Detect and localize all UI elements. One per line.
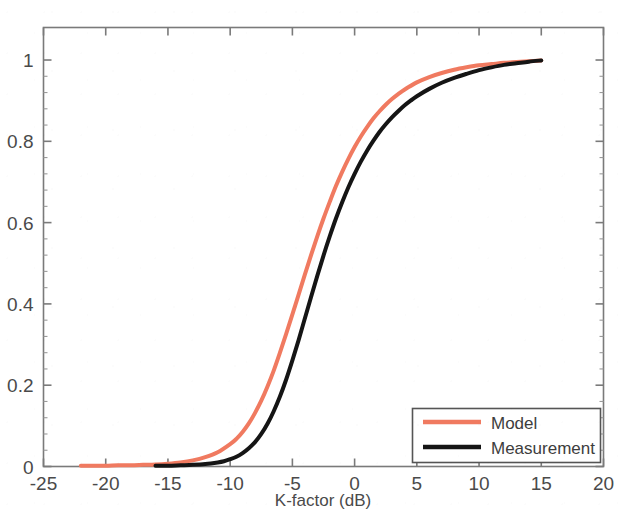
figure-container: 00.20.40.60.81 -25-20-15-10-505101520 K-… — [0, 0, 625, 514]
y-axis-tick-labels: 00.20.40.60.81 — [7, 50, 34, 477]
y-tick-label: 0.8 — [7, 131, 33, 152]
y-tick-label: 1 — [23, 50, 34, 71]
x-tick-label: 5 — [412, 473, 423, 494]
y-tick-label: 0.6 — [7, 213, 33, 234]
x-tick-label: -20 — [92, 473, 119, 494]
x-tick-label: 10 — [468, 473, 489, 494]
x-tick-label: -25 — [30, 473, 57, 494]
legend-label-measurement: Measurement — [491, 439, 595, 458]
series-line-measurement — [156, 60, 542, 465]
x-tick-label: -10 — [216, 473, 243, 494]
y-tick-label: 0.2 — [7, 375, 33, 396]
data-series-group — [81, 60, 541, 465]
y-tick-label: 0.4 — [7, 294, 34, 315]
x-axis-tick-marks — [44, 28, 604, 467]
axes-frame — [44, 28, 604, 467]
legend-label-model: Model — [491, 414, 537, 433]
x-tick-label: -15 — [154, 473, 181, 494]
y-axis-tick-marks — [44, 60, 604, 466]
cdf-chart: 00.20.40.60.81 -25-20-15-10-505101520 K-… — [0, 0, 625, 514]
series-line-model — [81, 60, 541, 465]
legend: ModelMeasurement — [413, 409, 601, 463]
x-tick-label: 20 — [593, 473, 614, 494]
x-tick-label: 15 — [531, 473, 552, 494]
x-axis-title: K-factor (dB) — [275, 491, 371, 510]
